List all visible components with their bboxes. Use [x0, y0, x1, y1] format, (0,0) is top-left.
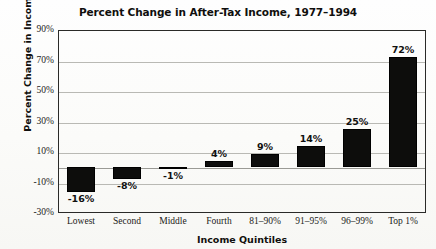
x-axis-tick-label: 91–95% [288, 216, 334, 226]
bar-value-label: 25% [334, 116, 380, 127]
bar-value-label: -8% [104, 180, 150, 191]
x-axis-tick-label: Second [104, 216, 150, 226]
x-axis-tick-label: 96–99% [334, 216, 380, 226]
x-axis-title: Income Quintiles [58, 234, 426, 245]
x-axis-tick-label: 81–90% [242, 216, 288, 226]
bar [343, 129, 371, 167]
bar-value-label: -16% [58, 193, 104, 204]
y-axis-tick-label: 50% [6, 85, 54, 95]
bar-value-label: 9% [242, 141, 288, 152]
x-axis-tick-label: Middle [150, 216, 196, 226]
y-axis-tick-labels: 90%70%50%30%10%-10%-30% [2, 30, 54, 213]
bar [297, 146, 325, 167]
y-axis-tick-label: 30% [6, 116, 54, 126]
bar [67, 167, 95, 191]
bar-value-label: 72% [380, 44, 426, 55]
x-axis-tick-label: Lowest [58, 216, 104, 226]
bar [113, 167, 141, 179]
bar-value-label: -1% [150, 170, 196, 181]
y-axis-tick-label: -10% [6, 177, 54, 187]
bar-value-label: 14% [288, 133, 334, 144]
bar-value-label: 4% [196, 148, 242, 159]
y-axis-tick-label: -30% [6, 207, 54, 217]
bar [389, 57, 417, 167]
bar [251, 154, 279, 168]
x-axis-tick-label: Top 1% [380, 216, 426, 226]
bar [205, 161, 233, 167]
x-axis-tick-label: Fourth [196, 216, 242, 226]
y-axis-tick-label: 90% [6, 24, 54, 34]
bar-series: -16%-8%-1%4%9%14%25%72% [58, 30, 426, 213]
y-axis-tick-label: 70% [6, 55, 54, 65]
chart-figure: Percent Change in After-Tax Income, 1977… [0, 0, 436, 249]
x-axis-tick-labels: LowestSecondMiddleFourth81–90%91–95%96–9… [58, 216, 426, 232]
y-axis-tick-label: 10% [6, 146, 54, 156]
chart-title: Percent Change in After-Tax Income, 1977… [0, 6, 436, 18]
